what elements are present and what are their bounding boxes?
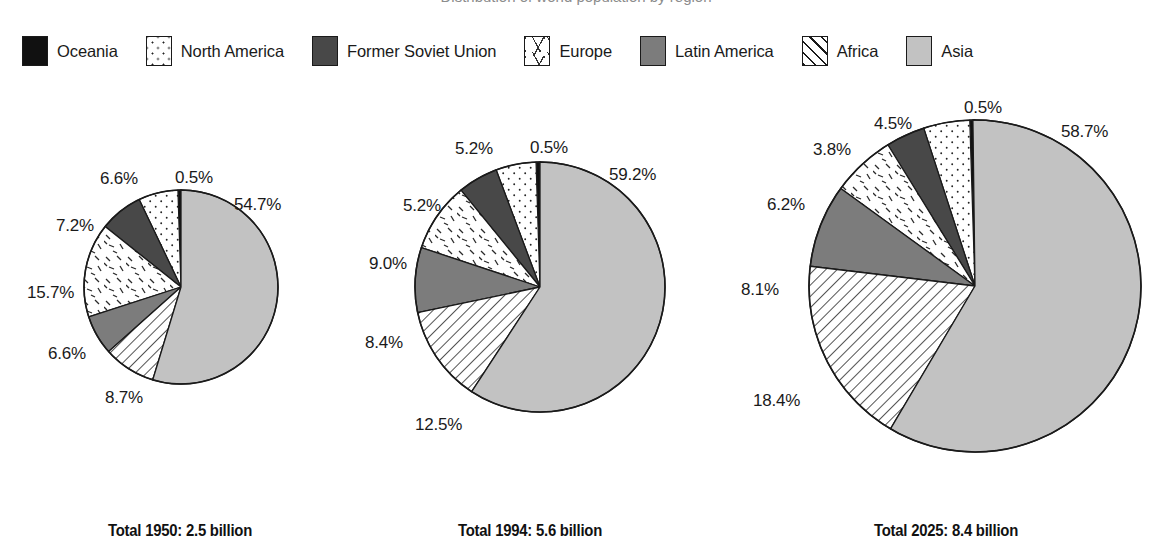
legend-item-asia[interactable]: Asia bbox=[906, 34, 973, 68]
slice-percent-label: 6.6% bbox=[100, 169, 138, 189]
swatch-dark-gray-icon bbox=[312, 36, 338, 66]
legend-item-former-soviet-union[interactable]: Former Soviet Union bbox=[312, 34, 524, 68]
slice-percent-label: 3.8% bbox=[813, 140, 851, 160]
legend-label: Latin America bbox=[675, 42, 774, 61]
pie-chart-1994: 0.5%59.2%12.5%8.4%9.0%5.2%5.2% Total 199… bbox=[340, 100, 720, 555]
pie-svg-1994 bbox=[413, 160, 667, 414]
legend-label: Former Soviet Union bbox=[347, 42, 496, 61]
slice-percent-label: 54.7% bbox=[234, 195, 281, 215]
slice-percent-label: 5.2% bbox=[403, 196, 441, 216]
slice-percent-label: 18.4% bbox=[753, 391, 800, 411]
legend-item-north-america[interactable]: North America bbox=[146, 34, 312, 68]
legend-item-africa[interactable]: Africa bbox=[802, 34, 907, 68]
slice-percent-label: 58.7% bbox=[1061, 122, 1108, 142]
legend-item-latin-america[interactable]: Latin America bbox=[640, 34, 802, 68]
slice-percent-label: 9.0% bbox=[369, 254, 407, 274]
slice-percent-label: 6.2% bbox=[767, 195, 805, 215]
pie-chart-1950: 0.5%54.7%8.7%6.6%15.7%7.2%6.6% Total 195… bbox=[0, 100, 360, 555]
slice-percent-label: 8.7% bbox=[105, 388, 143, 408]
swatch-dashes-icon bbox=[524, 36, 550, 66]
slice-percent-label: 12.5% bbox=[415, 415, 462, 435]
page-title-strip: Distribution of world population by regi… bbox=[0, 0, 1152, 14]
slice-percent-label: 0.5% bbox=[530, 138, 568, 158]
swatch-solid-black-icon bbox=[22, 36, 48, 66]
legend-label: Europe bbox=[559, 42, 612, 61]
pie-wrap-2025: 0.5%58.7%18.4%8.1%6.2%3.8%4.5% bbox=[807, 118, 1143, 454]
legend-item-europe[interactable]: Europe bbox=[524, 34, 640, 68]
swatch-medium-gray-icon bbox=[640, 36, 666, 66]
slice-percent-label: 6.6% bbox=[48, 344, 86, 364]
slice-percent-label: 8.1% bbox=[741, 280, 779, 300]
chart-caption-1994: Total 1994: 5.6 billion bbox=[353, 522, 706, 540]
slice-percent-label: 15.7% bbox=[27, 283, 74, 303]
slice-percent-label: 8.4% bbox=[365, 333, 403, 353]
swatch-diagonal-hatch-icon bbox=[802, 36, 828, 66]
legend-item-oceania[interactable]: Oceania bbox=[22, 34, 146, 68]
swatch-dotted-icon bbox=[146, 36, 172, 66]
pie-wrap-1994: 0.5%59.2%12.5%8.4%9.0%5.2%5.2% bbox=[413, 160, 667, 414]
slice-percent-label: 4.5% bbox=[874, 114, 912, 134]
legend-label: North America bbox=[181, 42, 284, 61]
legend-label: Oceania bbox=[57, 42, 118, 61]
slice-percent-label: 0.5% bbox=[175, 168, 213, 188]
legend: OceaniaNorth AmericaFormer Soviet UnionE… bbox=[22, 34, 1142, 68]
slice-percent-label: 0.5% bbox=[964, 98, 1002, 118]
slice-percent-label: 7.2% bbox=[56, 216, 94, 236]
slice-percent-label: 59.2% bbox=[609, 165, 656, 185]
pie-wrap-1950: 0.5%54.7%8.7%6.6%15.7%7.2%6.6% bbox=[82, 188, 280, 386]
swatch-light-gray-icon bbox=[906, 36, 932, 66]
legend-label: Africa bbox=[837, 42, 879, 61]
pie-chart-2025: 0.5%58.7%18.4%8.1%6.2%3.8%4.5% Total 202… bbox=[740, 100, 1152, 555]
chart-caption-1950: Total 1950: 2.5 billion bbox=[13, 522, 348, 540]
pie-svg-2025 bbox=[807, 118, 1143, 454]
pie-svg-1950 bbox=[82, 188, 280, 386]
chart-caption-2025: Total 2025: 8.4 billion bbox=[754, 522, 1137, 540]
slice-percent-label: 5.2% bbox=[455, 139, 493, 159]
page-title: Distribution of world population by regi… bbox=[0, 0, 1152, 5]
legend-label: Asia bbox=[941, 42, 973, 61]
